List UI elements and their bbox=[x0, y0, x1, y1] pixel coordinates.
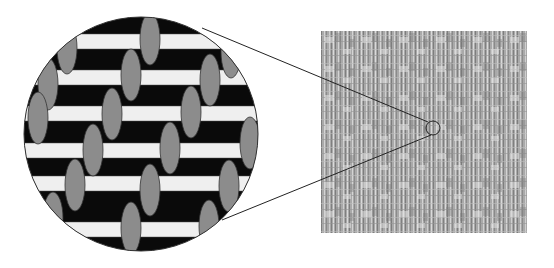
fabric-swatch bbox=[321, 31, 527, 233]
weave-diagram bbox=[0, 0, 554, 268]
magnified-weave-circle bbox=[20, 10, 270, 260]
